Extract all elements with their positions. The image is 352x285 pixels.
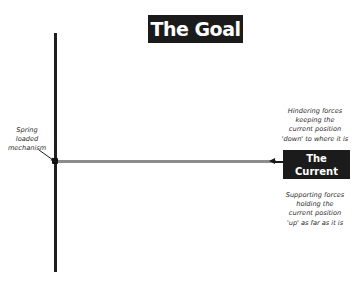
spring-note-line-1: Spring — [2, 126, 52, 135]
hindering-forces-note: Hindering forces keeping the current pos… — [275, 107, 352, 144]
supporting-note-line-1: Supporting forces — [275, 191, 352, 200]
supporting-note-line-3: current position — [275, 209, 352, 218]
current-position-box: The Current Position — [283, 150, 350, 179]
hindering-note-line-4: 'down' to where it is — [275, 135, 352, 144]
spring-mechanism-note: Spring loaded mechanism — [2, 126, 52, 154]
current-position-line — [56, 160, 276, 163]
spring-note-line-2: loaded — [2, 135, 52, 144]
goal-box: The Goal — [148, 15, 243, 43]
current-position-label-line-1: The Current — [283, 152, 350, 178]
supporting-note-line-4: 'up' as far as it is — [275, 219, 352, 228]
hindering-note-line-2: keeping the — [275, 116, 352, 125]
goal-title: The Goal — [151, 18, 241, 40]
supporting-note-line-2: holding the — [275, 200, 352, 209]
hindering-note-line-1: Hindering forces — [275, 107, 352, 116]
hindering-note-line-3: current position — [275, 125, 352, 134]
supporting-forces-note: Supporting forces holding the current po… — [275, 191, 352, 228]
current-position-label-line-2: Position — [283, 178, 350, 191]
spring-note-line-3: mechanism — [2, 144, 52, 153]
